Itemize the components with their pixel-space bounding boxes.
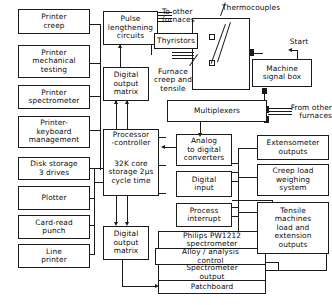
box-thyristors-label: Thyristors bbox=[156, 37, 196, 45]
box-multiplexers[interactable]: Multiplexers bbox=[167, 100, 267, 122]
box-plotter-label: Plotter bbox=[20, 194, 88, 202]
box-process-interrupt[interactable]: Process interrupt bbox=[176, 203, 232, 227]
box-creep-load-weighing-system-label: Creep load weighing system bbox=[259, 167, 327, 192]
link-extensometer bbox=[238, 148, 258, 149]
right-feeder-a bbox=[232, 163, 239, 164]
link-printer-creep bbox=[90, 24, 101, 25]
proc-stub-b bbox=[158, 165, 166, 166]
box-processor-controller-label: Processor -controller bbox=[103, 131, 159, 148]
spectrometer-out-stub bbox=[266, 262, 278, 263]
start-v bbox=[297, 50, 298, 59]
box-line-printer-label: Line printer bbox=[20, 248, 88, 265]
box-core-storage-label: 32K core storage 2µs cycle time bbox=[103, 160, 159, 185]
label-furnace-creep-and-tensile: Furnace creep and tensile bbox=[148, 68, 198, 93]
pad-msb-bottom bbox=[262, 88, 267, 94]
link-dom-bottom-to-patchboard bbox=[122, 286, 155, 287]
arrow-proc-to-dom-bottom-a bbox=[114, 222, 118, 226]
box-digital-input-label: Digital input bbox=[178, 176, 230, 193]
box-patchboard-label: Patchboard bbox=[160, 283, 264, 291]
spectrometer-out-stub-v bbox=[278, 262, 279, 271]
spectrometer-out-h bbox=[266, 270, 326, 271]
box-line-printer[interactable]: Line printer bbox=[18, 244, 90, 268]
box-digital-output-matrix-top[interactable]: Digital output matrix bbox=[103, 67, 149, 101]
box-printer-spectrometer-label: Printer spectrometer bbox=[20, 89, 88, 106]
label-start: Start bbox=[281, 38, 317, 46]
box-machine-signal-box[interactable]: Machine signal box bbox=[252, 59, 312, 87]
start-h bbox=[291, 50, 298, 51]
box-philips-spectrometer-label: Philips PW1212 spectrometer bbox=[160, 232, 264, 249]
link-printer-keyboard bbox=[90, 130, 101, 131]
arrow-dom-to-pulse bbox=[118, 44, 122, 48]
furnace-creep-and-tensile-box bbox=[192, 18, 250, 90]
label-from-other-furnaces: From other furnaces bbox=[284, 104, 332, 121]
box-digital-output-matrix-top-label: Digital output matrix bbox=[105, 71, 147, 96]
link-printer-spectrometer bbox=[90, 96, 101, 97]
link-proc-to-dom-b bbox=[127, 101, 128, 129]
link-lower-trunk-to-processor bbox=[94, 168, 103, 169]
bus-thyristors-to-furnace-2 bbox=[172, 52, 194, 61]
box-creep-load-weighing-system[interactable]: Creep load weighing system bbox=[257, 164, 329, 196]
link-printer-mechanical bbox=[90, 63, 101, 64]
box-printer-spectrometer[interactable]: Printer spectrometer bbox=[18, 85, 90, 109]
link-dom-bottom-down bbox=[122, 260, 123, 286]
left-trunk-upper bbox=[100, 24, 101, 170]
box-plotter[interactable]: Plotter bbox=[18, 186, 90, 210]
box-printer-mechanical-testing-label: Printer mechanical testing bbox=[20, 49, 88, 74]
right-feeder-c bbox=[232, 181, 239, 182]
box-card-read-punch-label: Card-read punch bbox=[20, 219, 88, 236]
box-pulse-lengthening-circuits-label: Pulse lengthening circuits bbox=[105, 15, 156, 40]
arrow-proc-to-dom-bottom-b bbox=[125, 222, 129, 226]
right-feeder-e bbox=[232, 216, 239, 217]
link-proc-to-dom-bottom-b bbox=[127, 196, 128, 222]
link-plotter bbox=[90, 198, 95, 199]
box-process-interrupt-label: Process interrupt bbox=[178, 207, 230, 224]
arrow-start bbox=[288, 48, 292, 52]
box-printer-creep[interactable]: Printer creep bbox=[18, 9, 90, 34]
link-creep-load bbox=[238, 177, 258, 178]
label-to-other-furnaces: To other furnaces bbox=[162, 8, 210, 25]
box-printer-mechanical-testing[interactable]: Printer mechanical testing bbox=[18, 45, 90, 78]
proc-stub-a bbox=[158, 137, 166, 138]
thermocouple-upper-icon bbox=[209, 34, 215, 40]
box-pulse-lengthening-circuits[interactable]: Pulse lengthening circuits bbox=[103, 11, 158, 45]
box-disk-storage[interactable]: Disk storage 3 drives bbox=[18, 157, 90, 180]
box-spectrometer-output-label: Spectrometer output bbox=[160, 264, 264, 281]
box-printer-keyboard-management-label: Printer- keyboard management bbox=[20, 119, 88, 144]
box-tensile-machines-outputs[interactable]: Tensile machines load and extension outp… bbox=[257, 202, 329, 254]
box-extensometer-outputs-label: Extensometer outputs bbox=[259, 139, 327, 156]
box-patchboard[interactable]: Patchboard bbox=[158, 280, 266, 294]
arrow-proc-to-dom-a bbox=[114, 100, 118, 104]
box-printer-keyboard-management[interactable]: Printer- keyboard management bbox=[18, 116, 90, 148]
box-digital-output-matrix-bottom-label: Digital output matrix bbox=[105, 230, 147, 255]
right-feeder-b bbox=[232, 172, 239, 173]
box-analog-to-digital-converters-label: Analog to digital converters bbox=[178, 137, 230, 162]
box-thyristors[interactable]: Thyristors bbox=[154, 33, 198, 49]
box-spectrometer-output[interactable]: Spectrometer output bbox=[158, 264, 266, 281]
block-diagram: Printer creep Printer mechanical testing… bbox=[0, 0, 332, 305]
link-dom-to-pulse bbox=[120, 45, 121, 67]
proc-stub-c bbox=[158, 193, 166, 194]
arrow-to-patchboard bbox=[155, 284, 159, 288]
label-thermocouples: Thermocouples bbox=[222, 4, 297, 12]
box-machine-signal-box-label: Machine signal box bbox=[254, 65, 310, 82]
arrow-mux-to-adc bbox=[198, 133, 202, 137]
box-card-read-punch[interactable]: Card-read punch bbox=[18, 215, 90, 239]
right-feeder-d bbox=[232, 207, 239, 208]
link-proc-to-dom-bottom-a bbox=[116, 196, 117, 222]
box-digital-output-matrix-bottom[interactable]: Digital output matrix bbox=[103, 226, 149, 260]
left-trunk-lower bbox=[94, 168, 95, 254]
box-digital-input[interactable]: Digital input bbox=[176, 171, 232, 197]
box-printer-creep-label: Printer creep bbox=[20, 13, 88, 30]
link-proc-to-dom-a bbox=[116, 101, 117, 129]
link-lower-trunk-to-core bbox=[94, 182, 103, 183]
pi-right-stub bbox=[232, 200, 273, 201]
arrow-adc-to-proc bbox=[161, 145, 165, 149]
link-line-printer bbox=[90, 254, 95, 255]
box-multiplexers-label: Multiplexers bbox=[169, 107, 265, 115]
box-tensile-machines-outputs-label: Tensile machines load and extension outp… bbox=[259, 207, 327, 249]
link-tensile bbox=[238, 212, 258, 213]
box-analog-to-digital-converters[interactable]: Analog to digital converters bbox=[176, 134, 232, 166]
box-extensometer-outputs[interactable]: Extensometer outputs bbox=[257, 135, 329, 160]
link-card-read bbox=[90, 225, 95, 226]
arrow-proc-to-dom-b bbox=[125, 100, 129, 104]
